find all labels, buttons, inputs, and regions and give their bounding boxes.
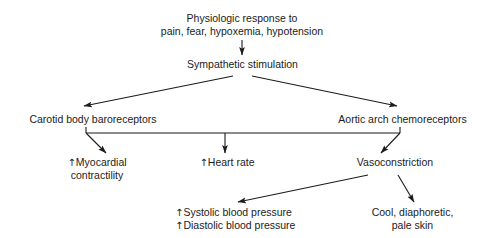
flowchart-diagram: Physiologic response to pain, fear, hypo… xyxy=(0,0,483,238)
node-myocardial-contractility: ↑Myocardial contractility xyxy=(42,156,152,182)
node-stimulus: Physiologic response to pain, fear, hypo… xyxy=(137,12,347,38)
edge-bus-to-vasoconstriction xyxy=(381,133,400,153)
edge-sympathetic-to-carotid xyxy=(84,76,233,106)
node-systolic-line: ↑Systolic blood pressure xyxy=(175,206,315,219)
node-diastolic-text: Diastolic blood pressure xyxy=(183,219,295,231)
edge-vasoconstriction-to-skin xyxy=(398,175,414,202)
node-skin-line2: pale skin xyxy=(350,219,475,232)
node-heart-rate-text: Heart rate xyxy=(208,156,255,168)
node-myocardial-line1: ↑Myocardial xyxy=(42,156,152,169)
node-sympathetic-label: Sympathetic stimulation xyxy=(165,58,320,71)
node-heart-rate: ↑Heart rate xyxy=(177,156,277,169)
up-arrow-icon: ↑ xyxy=(67,157,75,168)
node-heart-rate-line1: ↑Heart rate xyxy=(177,156,277,169)
edge-sympathetic-to-aortic xyxy=(252,76,397,106)
node-carotid-body-baroreceptors: Carotid body baroreceptors xyxy=(8,113,178,126)
edge-bus-to-myocardial xyxy=(86,133,106,153)
node-stimulus-line1: Physiologic response to xyxy=(137,12,347,25)
node-aortic-label: Aortic arch chemoreceptors xyxy=(325,113,480,126)
edge-vasoconstriction-to-blood-pressure xyxy=(238,175,368,202)
node-systolic-text: Systolic blood pressure xyxy=(183,206,292,218)
node-skin-signs: Cool, diaphoretic, pale skin xyxy=(350,206,475,232)
node-vasoconstriction: Vasoconstriction xyxy=(340,156,450,169)
node-aortic-arch-chemoreceptors: Aortic arch chemoreceptors xyxy=(325,113,480,126)
node-carotid-label: Carotid body baroreceptors xyxy=(8,113,178,126)
node-vasoconstriction-label: Vasoconstriction xyxy=(340,156,450,169)
node-sympathetic-stimulation: Sympathetic stimulation xyxy=(165,58,320,71)
node-myocardial-text1: Myocardial xyxy=(76,156,127,168)
up-arrow-icon: ↑ xyxy=(199,157,207,168)
node-blood-pressure: ↑Systolic blood pressure ↑Diastolic bloo… xyxy=(175,206,315,232)
node-diastolic-line: ↑Diastolic blood pressure xyxy=(175,219,315,232)
node-myocardial-line2: contractility xyxy=(42,169,152,182)
node-stimulus-line2: pain, fear, hypoxemia, hypotension xyxy=(137,25,347,38)
node-skin-line1: Cool, diaphoretic, xyxy=(350,206,475,219)
